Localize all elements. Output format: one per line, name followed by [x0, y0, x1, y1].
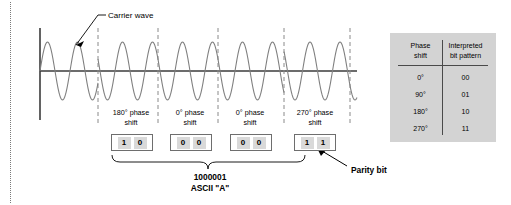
- table-row: 90° 01: [398, 86, 488, 103]
- phase-label-3-line2: shift: [280, 118, 350, 128]
- reference-table-header-phase: Phase shift: [398, 40, 443, 62]
- row-1-phase: 90°: [398, 91, 443, 98]
- diagram-canvas: Carrier wave 180° phase shift 0° phase s…: [0, 0, 511, 205]
- table-row: 270° 11: [398, 120, 488, 137]
- reference-table-header: Phase shift Interpreted bit pattern: [398, 40, 488, 62]
- carrier-wave-label: Carrier wave: [108, 11, 153, 20]
- row-2-pattern: 10: [443, 108, 488, 115]
- reference-table-header-rule: [398, 65, 488, 66]
- reference-table-body: 0° 00 90° 01 180° 10 270° 11: [398, 69, 488, 137]
- bit-cell-3-1: 1: [317, 137, 330, 149]
- bit-cell-1-0: 0: [177, 137, 190, 149]
- bit-cell-2-1: 0: [253, 137, 266, 149]
- phase-label-2-line1: 0° phase: [215, 108, 285, 118]
- parity-bit-label: Parity bit: [351, 165, 387, 175]
- bit-box-1: 0 0: [170, 134, 212, 151]
- row-1-pattern: 01: [443, 91, 488, 98]
- reference-table-inner: Phase shift Interpreted bit pattern 0° 0…: [398, 40, 488, 135]
- bit-cell-3-0: 1: [301, 137, 314, 149]
- ascii-bits: 1000001: [155, 172, 265, 183]
- bit-box-2: 0 0: [230, 134, 272, 151]
- row-2-phase: 180°: [398, 108, 443, 115]
- reference-table-header-pattern: Interpreted bit pattern: [443, 40, 488, 62]
- ascii-caption: 1000001 ASCII "A": [155, 172, 265, 194]
- table-row: 0° 00: [398, 69, 488, 86]
- phase-label-2-line2: shift: [215, 118, 285, 128]
- header-phase-line1: Phase: [398, 41, 443, 51]
- row-3-phase: 270°: [398, 125, 443, 132]
- header-pattern-line1: Interpreted: [443, 41, 488, 51]
- header-phase-line2: shift: [398, 51, 443, 61]
- phase-bit-reference-table: Phase shift Interpreted bit pattern 0° 0…: [390, 33, 496, 142]
- header-pattern-line2: bit pattern: [443, 51, 488, 61]
- phase-label-2: 0° phase shift: [215, 108, 285, 128]
- phase-label-3: 270° phase shift: [280, 108, 350, 128]
- bit-cell-0-1: 0: [134, 137, 147, 149]
- bit-box-0: 1 0: [111, 134, 153, 151]
- phase-label-3-line1: 270° phase: [280, 108, 350, 118]
- bit-box-3: 1 1: [294, 134, 336, 151]
- bit-cell-1-1: 0: [193, 137, 206, 149]
- carrier-wave-leader: [76, 15, 106, 47]
- bit-cell-2-0: 0: [237, 137, 250, 149]
- row-3-pattern: 11: [443, 125, 488, 132]
- table-row: 180° 10: [398, 103, 488, 120]
- row-0-phase: 0°: [398, 74, 443, 81]
- ascii-char: ASCII "A": [155, 183, 265, 194]
- row-0-pattern: 00: [443, 74, 488, 81]
- bit-cell-0-0: 1: [118, 137, 131, 149]
- ascii-group-brace: [112, 155, 305, 169]
